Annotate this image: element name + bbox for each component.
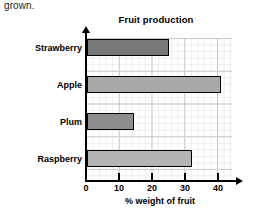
bar-raspberry xyxy=(87,150,192,167)
x-tick-mark xyxy=(85,173,87,181)
x-tick-mark xyxy=(184,173,186,181)
x-axis-line xyxy=(85,180,237,182)
x-axis-arrow-icon xyxy=(236,177,243,185)
bar-plum xyxy=(87,113,134,130)
bar-apple xyxy=(87,76,221,93)
x-tick-label: 30 xyxy=(173,183,197,193)
bar-chart-figure: Fruit production 0 10 20 30 40 % weight … xyxy=(0,12,256,221)
category-label-plum: Plum xyxy=(0,117,82,127)
y-axis-arrow-icon xyxy=(82,26,90,33)
page-root: grown. Fruit production 0 10 20 30 40 % … xyxy=(0,0,256,221)
chart-title: Fruit production xyxy=(86,14,226,25)
x-tick-mark xyxy=(217,173,219,181)
x-tick-label: 0 xyxy=(74,183,98,193)
x-tick-label: 10 xyxy=(107,183,131,193)
category-label-strawberry: Strawberry xyxy=(0,43,82,53)
x-axis-title: % weight of fruit xyxy=(86,196,234,206)
intro-text: grown. xyxy=(4,0,35,11)
x-tick-mark xyxy=(151,173,153,181)
x-tick-label: 20 xyxy=(140,183,164,193)
category-label-apple: Apple xyxy=(0,80,82,90)
x-tick-label: 40 xyxy=(206,183,230,193)
category-label-raspberry: Raspberry xyxy=(0,154,82,164)
x-tick-mark xyxy=(118,173,120,181)
bar-strawberry xyxy=(87,39,169,56)
